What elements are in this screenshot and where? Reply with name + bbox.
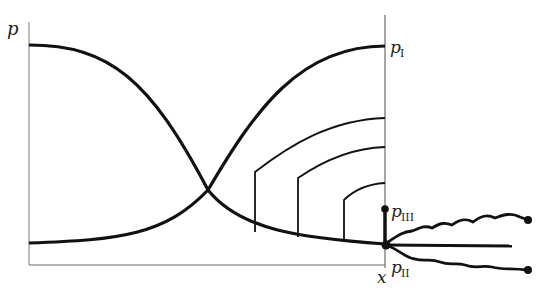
p1-subscript: I bbox=[400, 47, 404, 60]
p2-subscript: II bbox=[401, 267, 410, 280]
upper-end-dot bbox=[524, 216, 532, 224]
x-axis-label: x bbox=[377, 267, 387, 287]
straight-branch bbox=[385, 245, 512, 246]
pressure-diagram: p x p I p III p II bbox=[0, 0, 543, 293]
y-axis-label: p bbox=[7, 18, 19, 39]
p3-subscript: III bbox=[401, 211, 414, 224]
arc-1 bbox=[255, 118, 385, 232]
p3-dot bbox=[381, 205, 389, 213]
falling-curve bbox=[29, 45, 385, 244]
arc-3 bbox=[344, 183, 385, 241]
arc-2 bbox=[298, 147, 385, 237]
rising-curve bbox=[29, 46, 385, 243]
junction bbox=[382, 241, 391, 250]
lower-end-dot bbox=[524, 266, 532, 274]
